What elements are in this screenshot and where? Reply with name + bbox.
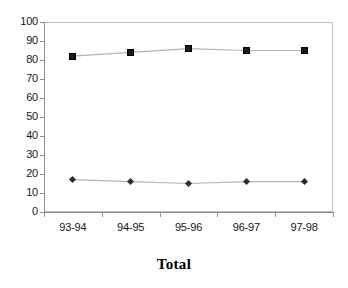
data-point-marker	[69, 53, 76, 60]
data-point-marker	[301, 47, 308, 54]
series-lines-layer	[0, 0, 348, 288]
chart-container: 0102030405060708090100 93-9494-9595-9696…	[0, 0, 348, 288]
data-point-marker	[127, 49, 134, 56]
data-point-marker	[185, 45, 192, 52]
data-point-marker	[243, 47, 250, 54]
chart-title: Total	[0, 256, 348, 273]
